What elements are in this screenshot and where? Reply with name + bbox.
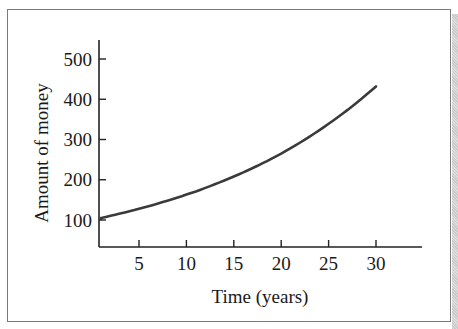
line-chart: 10020030040050051015202530 Time (years) … <box>0 0 458 329</box>
ticks: 10020030040050051015202530 <box>64 49 386 275</box>
y-tick-label: 300 <box>64 129 93 150</box>
x-tick-label: 25 <box>319 253 338 274</box>
y-tick-label: 200 <box>64 169 93 190</box>
x-tick-label: 15 <box>224 253 243 274</box>
x-tick-label: 10 <box>177 253 196 274</box>
y-tick-label: 400 <box>64 89 93 110</box>
y-axis-title: Amount of money <box>31 83 52 223</box>
axes <box>99 40 422 247</box>
x-tick-label: 5 <box>134 253 144 274</box>
y-tick-label: 500 <box>64 49 93 70</box>
x-tick-label: 30 <box>367 253 386 274</box>
data-line <box>101 86 376 219</box>
y-tick-label: 100 <box>64 210 93 231</box>
x-tick-label: 20 <box>272 253 291 274</box>
x-axis-title: Time (years) <box>212 286 309 308</box>
